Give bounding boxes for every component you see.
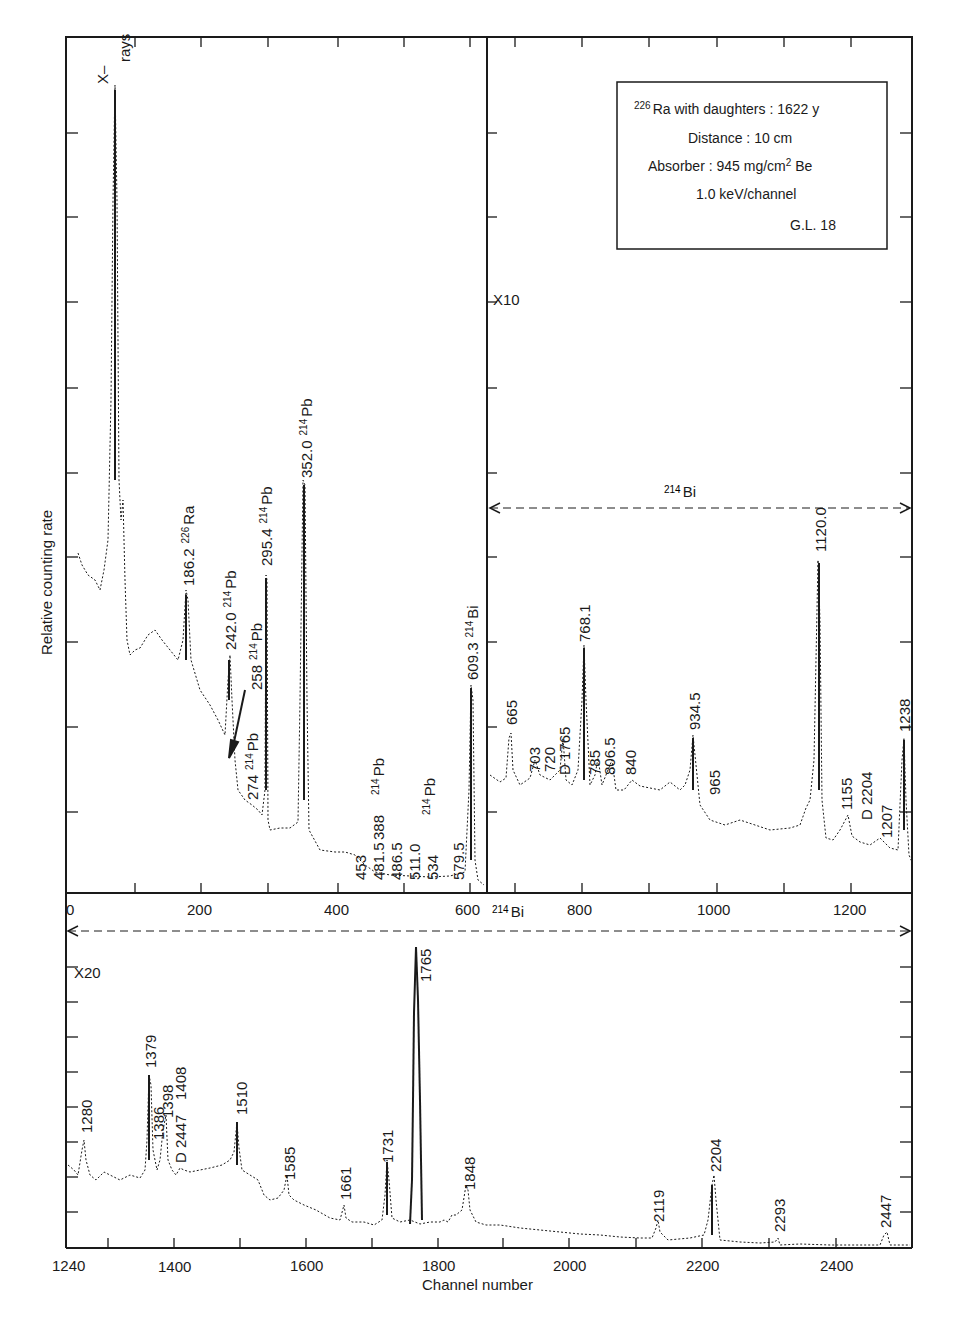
peak-label-2204: 2204 (707, 1139, 724, 1172)
y-axis-title: Relative counting rate (38, 510, 55, 655)
peak-label-453: 453 (352, 855, 369, 880)
peak-label-1155: 1155 (838, 778, 855, 810)
svg-text:1120.0: 1120.0 (812, 507, 829, 552)
peak-label-1661: 1661 (337, 1167, 354, 1200)
peak-label-768: 768.1 (576, 604, 593, 642)
svg-text:2447: 2447 (877, 1195, 894, 1228)
peak-label-1765: 1765 (417, 949, 434, 982)
svg-text:352.0214Pb: 352.0214Pb (298, 398, 315, 478)
svg-text:388: 388 (370, 815, 387, 840)
peak-label-511: 511.0 (406, 844, 423, 880)
peak-label-934-5: 934.5 (686, 692, 703, 730)
lower-panel (66, 893, 912, 1248)
peak-label-579-5: 579.5 (450, 842, 467, 880)
peak-label-2447: 2447 (877, 1195, 894, 1228)
peak-label-d2447: D 2447 (172, 1115, 189, 1163)
svg-text:1207: 1207 (878, 805, 895, 838)
arrow-258 (229, 690, 245, 758)
svg-text:186.2226Ra: 186.2226Ra (180, 505, 197, 586)
bi214-range-label: 214Bi (664, 483, 696, 500)
svg-text:295.4214Pb: 295.4214Pb (258, 486, 275, 566)
group-label-pb214-b: 214Pb (421, 778, 438, 815)
peak-label-965: 965 (706, 770, 723, 795)
svg-text:2293: 2293 (771, 1199, 788, 1232)
lower-peak-labels: 1280 1379 1386 1398 1408 D 2447 1510 158… (78, 949, 894, 1232)
svg-text:453: 453 (352, 855, 369, 880)
peak-label-242: 242.0214Pb (222, 570, 239, 650)
legend-line-2: Distance : 10 cm (688, 130, 792, 146)
bi214-range-arrow-upper: 214Bi (490, 483, 910, 513)
peak-label-1731: 1731 (379, 1130, 396, 1163)
tick-label: 1200 (833, 901, 866, 918)
peak-label-806-5: 806.5 (601, 737, 618, 775)
tick-label: 2200 (686, 1257, 719, 1274)
bi214-range-arrow-lower (68, 926, 910, 936)
peak-label-2119: 2119 (650, 1190, 667, 1222)
svg-text:665: 665 (503, 700, 520, 725)
svg-text:274214Pb: 274214Pb (244, 733, 261, 800)
tick-label: 2000 (553, 1257, 586, 1274)
peak-label-481-5: 481.5 (370, 842, 387, 880)
svg-text:609.3214Bi: 609.3214Bi (464, 605, 481, 680)
svg-text:768.1: 768.1 (576, 604, 593, 642)
tick-label: 1800 (422, 1257, 455, 1274)
peak-label-295: 295.4214Pb (258, 486, 275, 566)
peak-label-609: 609.3214Bi (464, 605, 481, 680)
upper-top-ticks (135, 37, 851, 47)
svg-text:258214Pb: 258214Pb (248, 623, 265, 690)
lower-left-ticks (66, 967, 78, 1212)
legend-box: 226Ra with daughters : 1622 y Distance :… (617, 82, 887, 249)
svg-text:534: 534 (424, 855, 441, 880)
svg-text:214Pb: 214Pb (421, 778, 438, 815)
tick-label: 800 (567, 901, 592, 918)
svg-text:214Pb: 214Pb (370, 758, 387, 795)
x-axis-title: Channel number (422, 1276, 533, 1293)
svg-text:2119: 2119 (650, 1190, 667, 1222)
peak-label-1379: 1379 (142, 1035, 159, 1068)
spectrum-upper-left (78, 85, 484, 885)
svg-text:511.0: 511.0 (406, 844, 423, 880)
svg-text:242.0214Pb: 242.0214Pb (222, 570, 239, 650)
tick-label: 600 (455, 901, 480, 918)
svg-text:481.5: 481.5 (370, 842, 387, 880)
peak-label-2293: 2293 (771, 1199, 788, 1232)
svg-text:1155: 1155 (838, 778, 855, 810)
peak-label-274: 274214Pb (244, 733, 261, 800)
svg-text:1731: 1731 (379, 1130, 396, 1163)
legend-line-1: 226Ra with daughters : 1622 y (634, 100, 819, 117)
svg-text:934.5: 934.5 (686, 692, 703, 730)
svg-text:1585: 1585 (281, 1147, 298, 1180)
svg-text:486.5: 486.5 (388, 842, 405, 880)
peak-label-xrays: X– (94, 65, 111, 84)
peak-label-665: 665 (503, 700, 520, 725)
svg-text:D 2447: D 2447 (172, 1115, 189, 1163)
peak-label-1120: 1120.0 (812, 507, 829, 552)
svg-text:1238: 1238 (896, 699, 913, 732)
peak-label-1510: 1510 (233, 1082, 250, 1115)
svg-text:1408: 1408 (172, 1067, 189, 1100)
lower-right-ticks (900, 967, 912, 1212)
svg-text:579.5: 579.5 (450, 842, 467, 880)
upper-left-ticks (66, 133, 78, 812)
peak-label-xrays-2: rays (116, 34, 133, 62)
svg-text:840: 840 (622, 750, 639, 775)
peak-label-486-5: 486.5 (388, 842, 405, 880)
tick-label: 2400 (820, 1257, 853, 1274)
lower-bottom-ticks (108, 1238, 836, 1248)
scale-label-x20: X20 (74, 964, 101, 981)
peak-label-1280: 1280 (78, 1100, 95, 1133)
peak-label-1408: 1408 (172, 1067, 189, 1100)
svg-text:1510: 1510 (233, 1082, 250, 1115)
scale-label-x10: X10 (493, 291, 520, 308)
tick-label: 1400 (158, 1258, 191, 1275)
peak-label-1207: 1207 (878, 805, 895, 838)
svg-text:rays: rays (116, 34, 133, 62)
tick-label: 0 (66, 901, 74, 918)
svg-text:1848: 1848 (461, 1157, 478, 1190)
peak-label-534: 534 (424, 855, 441, 880)
svg-text:D 2204: D 2204 (858, 772, 875, 820)
bi214-range-label-bottom: 214Bi (492, 903, 524, 920)
svg-text:D 1765: D 1765 (556, 727, 573, 775)
svg-text:X–: X– (94, 65, 111, 84)
svg-text:1765: 1765 (417, 949, 434, 982)
